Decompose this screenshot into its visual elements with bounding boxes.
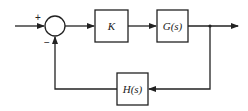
summing-junction xyxy=(45,16,65,36)
block-h-label: H(s) xyxy=(122,83,143,96)
plus-sign: + xyxy=(35,12,41,23)
block-k: K xyxy=(95,10,128,42)
block-h: H(s) xyxy=(117,73,148,105)
block-k-label: K xyxy=(107,20,116,32)
feedback-path-left xyxy=(55,37,117,89)
minus-sign: − xyxy=(44,37,50,48)
block-g-label: G(s) xyxy=(163,20,183,33)
block-g: G(s) xyxy=(157,10,188,42)
block-diagram: + − K G(s) H(s) xyxy=(0,0,248,111)
